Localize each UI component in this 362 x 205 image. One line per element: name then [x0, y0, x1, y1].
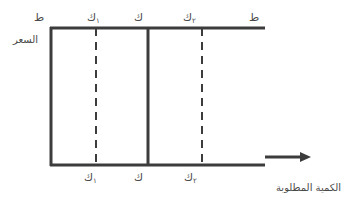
subscript-2: ٢	[192, 17, 196, 25]
bottom-label-q1: ١ك	[84, 172, 97, 187]
bottom-label-q2: ٢ك	[184, 172, 197, 187]
price-symbol-right: ط	[249, 12, 259, 24]
q2-symbol: ك	[183, 11, 192, 24]
top-label-q1: ١ك	[87, 12, 100, 27]
subscript-1: ١	[93, 177, 97, 185]
top-label-q2: ٢ك	[183, 12, 196, 27]
price-symbol-left: ط	[34, 12, 44, 24]
subscript-1: ١	[96, 17, 100, 25]
x-axis-label: الكمية المطلوبة	[276, 182, 341, 194]
q1-symbol: ك	[84, 171, 93, 184]
q2-symbol: ك	[184, 171, 193, 184]
diagram-graphic	[0, 0, 362, 205]
demand-diagram: ط ١ك ك ٢ك ط السعر ١ك ك ٢ك الكمية المطلوب…	[0, 0, 362, 205]
subscript-2: ٢	[193, 177, 197, 185]
right-arrow-icon	[265, 152, 311, 162]
top-label-q: ك	[134, 12, 143, 24]
q1-symbol: ك	[87, 11, 96, 24]
bottom-label-q: ك	[134, 172, 143, 184]
y-axis-label: السعر	[13, 34, 38, 46]
